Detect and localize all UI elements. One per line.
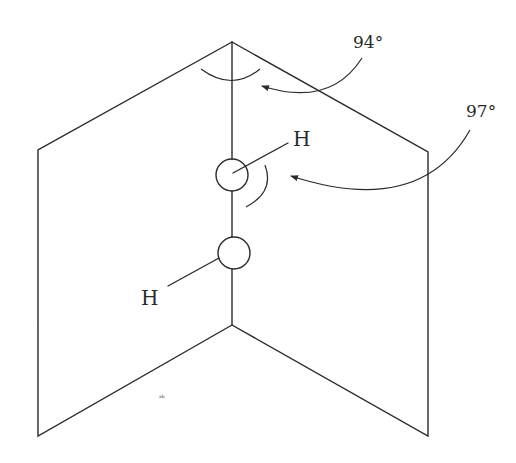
right-plane [232, 42, 428, 436]
oxygen-atom-upper [216, 159, 248, 191]
left-plane [38, 42, 232, 436]
oxygen-atom-lower [218, 237, 250, 269]
angle-97-label: 97° [466, 101, 496, 121]
dihedral-angle-arc [201, 69, 260, 81]
angle-97-arrow-icon [291, 130, 470, 190]
hydrogen-label-upper: H [293, 127, 310, 151]
angle-94-label: 94° [353, 32, 383, 52]
oh-bond-upper [233, 143, 288, 173]
hydrogen-label-lower: H [141, 286, 158, 310]
h2o2-structure-diagram: H H 94° 97° ᵃᵇ [0, 0, 516, 463]
bond-angle-arc [246, 165, 268, 207]
oh-bond-lower [168, 258, 219, 286]
stray-mark: ᵃᵇ [159, 394, 165, 402]
